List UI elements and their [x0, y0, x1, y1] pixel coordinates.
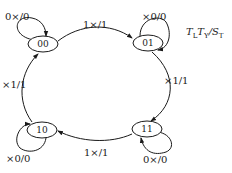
node-label-01: 01: [142, 39, 153, 48]
edge-label-self-10: ×0/0: [6, 154, 30, 164]
node-label-00: 00: [37, 40, 48, 49]
edge-01-11: [151, 52, 170, 121]
edge-label-01-11: ×1/1: [164, 76, 188, 86]
edge-11-10: [58, 131, 132, 140]
node-label-11: 11: [141, 125, 152, 134]
node-label-10: 10: [36, 126, 47, 135]
edge-label-self-11: 0×/0: [143, 155, 167, 165]
edge-label-self-00: 0×/0: [5, 12, 29, 22]
edge-label-11-10: 1×/1: [84, 148, 108, 158]
edge-label-10-00: ×1/1: [2, 80, 26, 90]
edge-label-00-01: 1×/1: [83, 20, 107, 30]
legend-label: TLTY/ST: [186, 27, 224, 40]
edge-label-self-01: ×0/0: [142, 12, 166, 22]
